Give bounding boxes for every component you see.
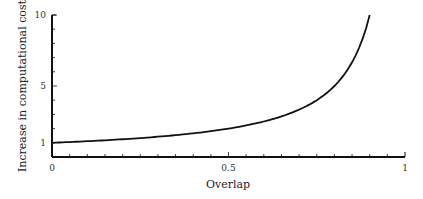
axes: 00.511510 bbox=[35, 10, 408, 173]
x-tick-label: 0.5 bbox=[221, 163, 236, 173]
y-tick-label: 5 bbox=[40, 81, 46, 91]
cost-curve bbox=[52, 15, 370, 143]
x-tick-label: 1 bbox=[402, 163, 408, 173]
y-axis-label: Increase in computational cost bbox=[16, 0, 29, 172]
x-tick-label: 0 bbox=[49, 163, 55, 173]
line-chart: 00.511510 Overlap Increase in computatio… bbox=[0, 0, 423, 199]
y-tick-label: 1 bbox=[40, 138, 46, 148]
x-axis-label: Overlap bbox=[206, 178, 250, 191]
y-tick-label: 10 bbox=[35, 10, 47, 20]
